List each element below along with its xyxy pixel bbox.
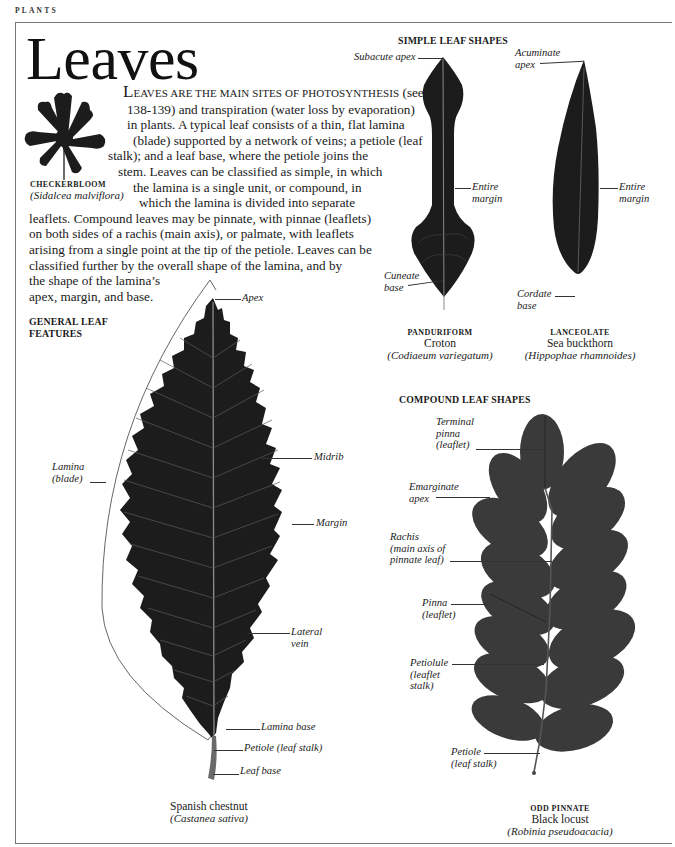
intro-line-6: stem. Leaves can be classified as simple… xyxy=(118,164,374,180)
leader-compound-petiole xyxy=(484,753,540,754)
lanceolate-caption: LANCEOLATE Sea buckthorn (Hippophae rham… xyxy=(515,328,645,361)
label-petiolule: Petiolule (leaflet stalk) xyxy=(410,657,448,692)
leader-apex xyxy=(215,299,241,300)
leader-lateral-vein xyxy=(248,633,290,634)
label-cordate-base: Cordate base xyxy=(517,288,551,311)
leader-leaf-base xyxy=(213,774,239,775)
leader-pinna xyxy=(451,604,491,605)
leader-subacute-apex xyxy=(418,58,442,59)
panduriform-caption: PANDURIFORM Croton (Codiaeum variegatum) xyxy=(380,328,500,361)
label-panduriform-margin: Entire margin xyxy=(472,181,502,204)
page-title: Leaves xyxy=(26,26,199,90)
intro-line-11: arising from a single point at the tip o… xyxy=(29,242,374,258)
intro-line-4: (blade) supported by a network of veins;… xyxy=(133,133,374,149)
leader-emarginate-apex xyxy=(436,497,490,498)
leader-petiole xyxy=(214,750,243,751)
leader-midrib xyxy=(262,458,312,459)
leader-lamina-base xyxy=(226,729,260,730)
leader-panduriform-margin xyxy=(455,188,471,189)
odd-pinnate-caption: ODD PINNATE Black locust (Robinia pseudo… xyxy=(495,804,625,837)
section-tag: PLANTS xyxy=(15,6,58,15)
leader-lamina xyxy=(90,482,106,483)
intro-line-7: the lamina is a single unit, or compound… xyxy=(133,180,374,196)
chestnut-caption: Spanish chestnut (Castanea sativa) xyxy=(170,800,248,824)
intro-line-5: stalk); and a leaf base, where the petio… xyxy=(108,148,374,164)
label-lanceolate-margin: Entire margin xyxy=(619,181,649,204)
odd-pinnate-leaf-image xyxy=(470,410,640,782)
intro-line-2: 138-139) and transpiration (water loss b… xyxy=(127,102,374,118)
general-features-heading: GENERAL LEAF FEATURES xyxy=(29,316,108,339)
label-pinna: Pinna (leaflet) xyxy=(422,597,456,620)
leader-cordate-base xyxy=(555,296,575,297)
intro-line-9: leaflets. Compound leaves may be pinnate… xyxy=(29,211,374,227)
label-midrib: Midrib xyxy=(314,451,343,463)
intro-line-12: classified further by the overall shape … xyxy=(29,258,374,274)
frame-top-rule xyxy=(15,22,672,23)
label-compound-petiole: Petiole (leaf stalk) xyxy=(451,746,497,769)
simple-shapes-heading: SIMPLE LEAF SHAPES xyxy=(398,35,508,47)
label-emarginate-apex: Emarginate apex xyxy=(409,481,459,504)
label-apex: Apex xyxy=(242,292,263,304)
label-terminal-pinna: Terminal pinna (leaflet) xyxy=(436,416,474,451)
label-cuneate-base: Cuneate base xyxy=(384,270,419,293)
compound-shapes-heading: COMPOUND LEAF SHAPES xyxy=(399,394,531,406)
label-lamina-base: Lamina base xyxy=(261,721,315,733)
leader-rachis xyxy=(450,561,552,562)
label-leaf-base: Leaf base xyxy=(240,765,281,777)
frame-left-rule xyxy=(15,22,16,843)
leader-margin xyxy=(292,524,314,525)
leader-terminal-pinna xyxy=(476,449,544,450)
lanceolate-leaf-image xyxy=(550,58,602,276)
label-acuminate-apex: Acuminate apex xyxy=(515,47,560,70)
label-petiole: Petiole (leaf stalk) xyxy=(244,742,322,754)
intro-line-1: LEAVES ARE THE MAIN SITES OF PHOTOSYNTHE… xyxy=(123,84,374,102)
leader-petiolule xyxy=(452,664,544,665)
label-lateral-vein: Lateral vein xyxy=(291,626,322,649)
intro-line-8: which the lamina is divided into separat… xyxy=(139,195,374,211)
intro-line-10: on both sides of a rachis (main axis), o… xyxy=(29,226,374,242)
intro-line-3: in plants. A typical leaf consists of a … xyxy=(127,117,374,133)
intro-paragraph: LEAVES ARE THE MAIN SITES OF PHOTOSYNTHE… xyxy=(29,84,374,304)
label-margin: Margin xyxy=(316,517,347,529)
chestnut-leaf-image xyxy=(100,278,300,783)
label-rachis: Rachis (main axis of pinnate leaf) xyxy=(390,531,445,566)
label-subacute-apex: Subacute apex xyxy=(354,51,415,63)
frame-bottom-rule xyxy=(15,843,672,844)
label-lamina: Lamina (blade) xyxy=(52,461,84,484)
leader-lanceolate-margin xyxy=(600,188,618,189)
